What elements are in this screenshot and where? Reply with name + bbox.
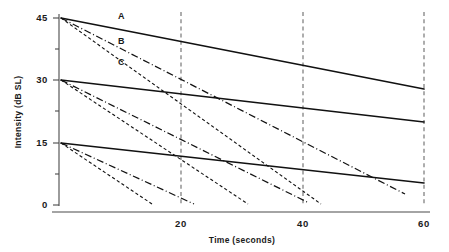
- series-label-a: A: [118, 11, 125, 21]
- y-tick-label-15: 15: [36, 137, 48, 148]
- curve-c-45: [61, 18, 321, 204]
- curve-group-15db: [61, 143, 424, 204]
- series-label-c: C: [118, 57, 125, 67]
- y-tick-label-0: 0: [42, 199, 48, 210]
- series-label-b: B: [118, 36, 125, 46]
- y-tick-label-30: 30: [36, 74, 48, 85]
- y-tick-label-45: 45: [36, 12, 48, 23]
- curve-group-30db: [61, 80, 424, 204]
- chart-canvas: 45 30 15 0 20 40 60 Time (seconds) Inten…: [0, 0, 449, 252]
- curve-b-15: [61, 143, 194, 204]
- x-tick-label-20: 20: [175, 218, 187, 229]
- chart-container: 45 30 15 0 20 40 60 Time (seconds) Inten…: [0, 0, 449, 252]
- curve-a-30: [61, 80, 424, 122]
- curve-a-45: [61, 18, 424, 89]
- x-axis-title: Time (seconds): [209, 235, 275, 245]
- x-tick-label-40: 40: [297, 218, 309, 229]
- x-tick-label-60: 60: [418, 218, 430, 229]
- curve-group-45db: [61, 18, 424, 204]
- curve-a-15: [61, 143, 424, 183]
- gridlines: [181, 12, 424, 206]
- axes: [52, 14, 430, 212]
- y-axis-title: Intensity (dB SL): [13, 76, 23, 149]
- curve-b-30: [61, 80, 309, 203]
